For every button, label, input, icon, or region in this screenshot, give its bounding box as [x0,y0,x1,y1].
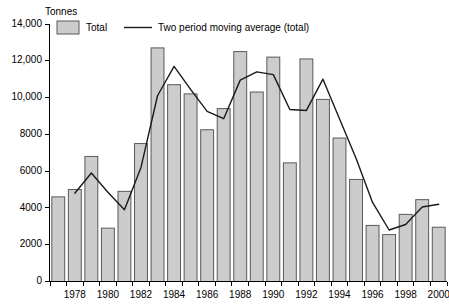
bar [350,179,363,281]
chart-legend: TotalTwo period moving average (total) [57,21,309,34]
bar [366,225,379,281]
bar [300,59,313,282]
bar [201,130,214,282]
legend-swatch-total [57,21,79,34]
y-tick-label: 6000 [20,165,43,176]
x-tick-label: 1996 [361,289,384,300]
x-tick-label: 1998 [395,289,418,300]
x-tick-label: 1994 [328,289,351,300]
x-tick-label: 1986 [196,289,219,300]
bar [168,85,181,282]
x-tick-label: 1980 [97,289,120,300]
bar [217,109,230,282]
y-tick-label: 10,000 [11,91,42,102]
bar [135,144,148,282]
bar [151,48,164,282]
x-tick-label: 1982 [130,289,153,300]
bar [101,228,114,281]
bar [333,138,346,281]
legend-label-moving-average: Two period moving average (total) [158,22,309,33]
y-tick-label: 12,000 [11,54,42,65]
x-tick-label: 1990 [262,289,285,300]
y-tick-label: 14,000 [11,18,42,29]
bar [250,92,263,281]
bar [432,227,445,281]
x-tick-label: 2000 [428,289,449,300]
bar [234,52,247,282]
bar-line-chart: TotalTwo period moving average (total) T… [0,0,449,305]
bar [316,99,329,281]
y-tick-label: 4000 [20,202,43,213]
x-tick-label: 1992 [295,289,318,300]
x-tick-label: 1988 [229,289,252,300]
bar-series-total [52,48,445,282]
x-tick-label: 1978 [64,289,87,300]
bar [383,235,396,282]
y-axis-title: Tonnes [45,6,77,17]
legend-label-total: Total [86,22,107,33]
bar [68,190,81,282]
x-tick-label: 1984 [163,289,186,300]
bar [283,163,296,282]
bar [85,156,98,281]
y-tick-label: 0 [36,275,42,286]
bar [52,197,65,282]
bar [267,57,280,281]
bar [184,94,197,282]
y-tick-label: 8000 [20,128,43,139]
x-axis-ticks: 1978198019821984198619881990199219941996… [50,282,449,300]
y-axis-ticks: 0200040006000800010,00012,00014,000 [11,18,49,287]
y-tick-label: 2000 [20,238,43,249]
chart-container: TotalTwo period moving average (total) T… [0,0,449,305]
